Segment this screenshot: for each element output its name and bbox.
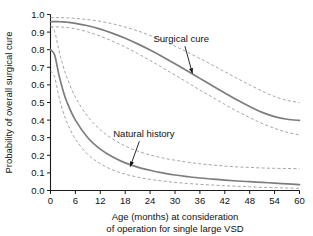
y-tick-label: 0.0 <box>31 185 44 196</box>
y-tick-label: 0.8 <box>31 44 44 55</box>
y-tick-label: 0.6 <box>31 79 44 90</box>
y-tick-label: 1.0 <box>31 9 44 20</box>
x-axis-title-line2: of operation for single large VSD <box>106 223 243 234</box>
x-tick-label: 18 <box>120 195 131 206</box>
y-tick-label: 0.5 <box>31 97 44 108</box>
y-tick-label: 0.7 <box>31 62 44 73</box>
y-tick-label: 0.4 <box>31 115 44 126</box>
figure-container: 0.00.10.20.30.40.50.60.70.80.91.00612182… <box>0 0 313 236</box>
x-tick-label: 6 <box>73 195 78 206</box>
y-tick-label: 0.9 <box>31 27 44 38</box>
x-tick-label: 36 <box>195 195 206 206</box>
y-axis-title: Probability of overall surgical cure <box>3 31 14 173</box>
x-tick-label: 12 <box>95 195 106 206</box>
series-curve <box>51 17 300 102</box>
series-curve <box>51 71 300 189</box>
annotation-label: Surgical cure <box>153 33 208 44</box>
series-curve <box>51 26 300 169</box>
x-tick-label: 0 <box>48 195 53 206</box>
annotation-label: Natural history <box>113 128 174 139</box>
x-tick-label: 42 <box>220 195 231 206</box>
probability-line-chart: 0.00.10.20.30.40.50.60.70.80.91.00612182… <box>0 0 313 236</box>
series-curve <box>51 50 300 185</box>
x-tick-label: 24 <box>145 195 156 206</box>
x-tick-label: 60 <box>294 195 305 206</box>
y-tick-label: 0.1 <box>31 167 44 178</box>
x-tick-label: 30 <box>170 195 181 206</box>
x-tick-label: 54 <box>269 195 280 206</box>
x-axis-title-line1: Age (months) at consideration <box>112 211 239 222</box>
x-tick-label: 48 <box>244 195 255 206</box>
y-tick-label: 0.3 <box>31 132 44 143</box>
plot-layer: 0.00.10.20.30.40.50.60.70.80.91.00612182… <box>3 9 305 234</box>
y-tick-label: 0.2 <box>31 150 44 161</box>
